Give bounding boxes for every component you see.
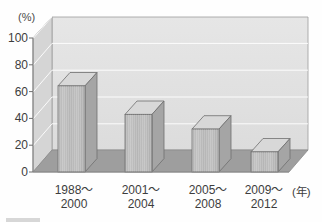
plot-left-wall xyxy=(33,17,52,172)
x-tick-label-1: 2001～ 2004 xyxy=(105,183,177,211)
x-tick-label-0-line2: 2000 xyxy=(38,197,110,211)
y-tick-label-100: 100 xyxy=(0,31,28,45)
x-tick-label-0: 1988～ 2000 xyxy=(38,183,110,211)
bar-2[interactable] xyxy=(192,116,231,172)
y-tick-label-0: 0 xyxy=(0,165,28,179)
y-tick-label-80: 80 xyxy=(0,58,28,72)
y-tick-label-20: 20 xyxy=(0,138,28,152)
cropped-legend-swatch xyxy=(6,218,40,222)
y-tick-label-40: 40 xyxy=(0,111,28,125)
y-tick-label-60: 60 xyxy=(0,85,28,99)
y-axis-ticks xyxy=(29,38,33,172)
chart-container: (%) xyxy=(0,0,322,222)
x-tick-label-3-line1: 2009～ xyxy=(228,183,300,197)
x-tick-label-3: 2009～ 2012 xyxy=(228,183,300,211)
x-tick-label-0-line1: 1988～ xyxy=(38,183,110,197)
x-tick-label-3-line2: 2012 xyxy=(228,197,300,211)
x-axis-unit-label: (年) xyxy=(292,183,311,199)
x-tick-label-1-line2: 2004 xyxy=(105,197,177,211)
x-tick-label-1-line1: 2001～ xyxy=(105,183,177,197)
bar-0[interactable] xyxy=(58,73,97,173)
bar-1[interactable] xyxy=(125,101,164,172)
